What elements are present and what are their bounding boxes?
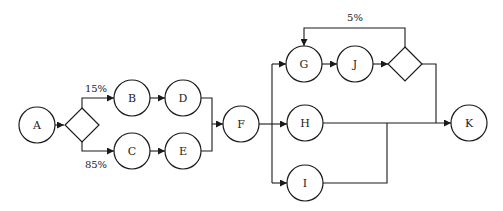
edge-i-to-merge xyxy=(323,123,387,183)
node-g: G xyxy=(286,46,322,82)
node-label-g: G xyxy=(300,58,309,71)
node-label-d: D xyxy=(179,92,188,105)
node-label-a: A xyxy=(32,119,42,132)
node-e: E xyxy=(165,133,201,169)
edges xyxy=(55,28,451,183)
node-c: C xyxy=(114,133,150,169)
process-flow-diagram: A B C D E F G H I J K 15% 85% 5% xyxy=(0,0,503,211)
edge-d-to-merge xyxy=(201,98,212,151)
node-j: J xyxy=(337,46,373,82)
node-label-b: B xyxy=(128,92,136,105)
node-d: D xyxy=(165,80,201,116)
node-label-h: H xyxy=(300,117,310,130)
edge-decision2-to-k xyxy=(422,64,436,123)
edge-decision1-to-c xyxy=(82,142,114,151)
node-k: K xyxy=(451,105,487,141)
decision-diamond-2 xyxy=(388,47,422,81)
node-b: B xyxy=(114,80,150,116)
edge-label-85-percent: 85% xyxy=(85,159,107,170)
node-h: H xyxy=(287,105,323,141)
edge-label-15-percent: 15% xyxy=(85,83,107,94)
node-label-f: F xyxy=(237,118,245,131)
node-label-e: E xyxy=(179,145,187,158)
node-i: I xyxy=(287,165,323,201)
node-label-k: K xyxy=(465,117,474,130)
node-a: A xyxy=(19,107,55,143)
edge-decision2-loop-to-g xyxy=(304,28,405,47)
node-f: F xyxy=(223,106,259,142)
node-label-i: I xyxy=(303,177,307,190)
node-label-c: C xyxy=(128,145,136,158)
node-label-j: J xyxy=(352,58,357,71)
edge-label-5-percent: 5% xyxy=(347,12,363,23)
edge-decision1-to-b xyxy=(82,98,114,108)
decision-diamond-1 xyxy=(65,108,99,142)
